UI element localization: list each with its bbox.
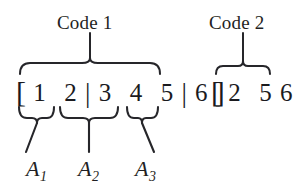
code1-value: 3 (98, 79, 113, 106)
part-label-subscript: 2 (91, 169, 99, 184)
code2-open-bracket: [ (211, 75, 221, 108)
block-a3-bottom-brace (127, 107, 158, 123)
code1-separator: | (84, 78, 91, 108)
code2-value: 2 (227, 79, 242, 106)
part-label-a3: A3 (135, 158, 156, 184)
code1-separator: | (180, 78, 187, 108)
block-a1-connector (26, 123, 37, 152)
part-label-a1: A1 (26, 158, 47, 184)
code1-value: 4 (129, 79, 144, 106)
code2-vector: [ 2 5 6 ] (211, 77, 294, 107)
code1-value: 6 (194, 79, 209, 106)
code1-open-bracket: [ (16, 75, 26, 108)
code2-value: 5 (258, 79, 273, 106)
code2-title: Code 2 (209, 13, 265, 32)
code1-value: 1 (32, 79, 47, 106)
part-label-subscript: 3 (148, 169, 156, 184)
code-decomposition-figure: Code 1 [ 1 2 | 3 4 5 | 6 ] Code 2 [ 2 5 … (0, 0, 294, 189)
code2-value: 6 (279, 79, 294, 106)
code1-top-brace (20, 58, 160, 74)
code2-top-brace (216, 61, 270, 74)
part-label-base: A (78, 156, 91, 181)
code1-value: 5 (160, 79, 175, 106)
block-a2-bottom-brace (60, 107, 118, 123)
part-label-base: A (135, 156, 148, 181)
block-a1-bottom-brace (19, 107, 54, 123)
block-a3-connector (142, 123, 154, 152)
code1-title: Code 1 (57, 13, 113, 32)
code1-value: 2 (63, 79, 78, 106)
code1-vector: [ 1 2 | 3 4 5 | 6 ] (16, 77, 225, 107)
part-label-subscript: 1 (39, 169, 47, 184)
part-label-a2: A2 (78, 158, 99, 184)
part-label-base: A (26, 156, 39, 181)
